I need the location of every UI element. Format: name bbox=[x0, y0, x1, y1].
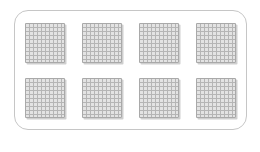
hundred-flat-grid-icon bbox=[139, 23, 179, 63]
hundred-flat-grid-icon bbox=[25, 23, 65, 63]
illustration-canvas bbox=[0, 0, 260, 152]
hundred-flat-grid-icon bbox=[82, 23, 122, 63]
hundred-flat-grid-icon bbox=[196, 23, 236, 63]
rounded-frame bbox=[14, 10, 247, 130]
hundred-flat-grid-icon bbox=[139, 78, 179, 118]
blocks-grid bbox=[25, 23, 236, 118]
hundred-flat-grid-icon bbox=[196, 78, 236, 118]
hundred-flat-grid-icon bbox=[82, 78, 122, 118]
hundred-flat-grid-icon bbox=[25, 78, 65, 118]
